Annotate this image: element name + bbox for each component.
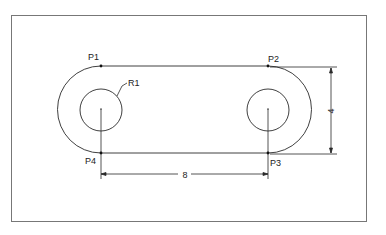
right-arc xyxy=(268,66,312,153)
holes xyxy=(80,89,289,131)
horizontal-dimension-value: 8 xyxy=(182,170,187,180)
arrow-down-icon xyxy=(330,148,333,153)
label-p2: P2 xyxy=(268,54,279,64)
label-p3: P3 xyxy=(270,158,281,168)
drawing-frame xyxy=(12,16,367,222)
point-markers xyxy=(100,65,270,155)
point-p1 xyxy=(100,65,103,68)
center-lines xyxy=(100,109,269,179)
technical-drawing: 4 8 R1 P1 P2 P3 P4 xyxy=(0,0,386,235)
radius-label: R1 xyxy=(128,78,140,88)
label-p4: P4 xyxy=(85,156,96,166)
arrow-left-icon xyxy=(101,173,106,176)
arrow-right-icon xyxy=(263,173,268,176)
slot-outline xyxy=(58,66,312,153)
vertical-dimension-value: 4 xyxy=(326,108,336,113)
arrow-up-icon xyxy=(330,68,333,73)
point-p3 xyxy=(267,152,270,155)
label-p1: P1 xyxy=(88,52,99,62)
point-p4 xyxy=(100,152,103,155)
radius-leader xyxy=(117,83,127,96)
left-arc xyxy=(58,66,102,153)
point-p2 xyxy=(267,65,270,68)
